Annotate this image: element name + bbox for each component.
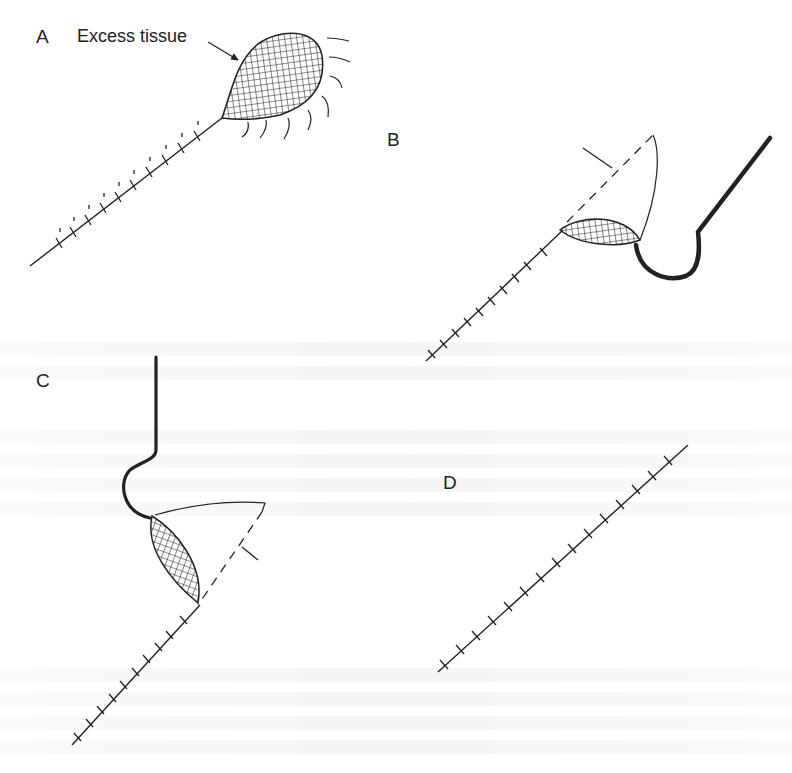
closed-incision-line [438,445,688,672]
incision-arrow [242,547,258,560]
retracted-tissue [151,516,199,603]
incision-arrow [583,148,612,168]
arrowhead-icon [231,54,238,60]
excess-tissue-dogear [222,33,323,119]
tissue-flap-outline [640,135,657,240]
incision-line [426,230,563,361]
skin-hook-icon [124,357,156,518]
panel-b [426,135,770,361]
skin-hook-icon [636,138,770,278]
sutures-icon [74,616,187,741]
tissue-flap-outline [155,502,265,515]
panel-a [30,33,350,266]
panel-c [72,357,265,745]
sutures-icon [440,456,672,669]
planned-excision-dashed-line [198,512,262,605]
panel-d [438,445,688,672]
surgical-diagram [0,0,792,773]
planned-excision-dashed-line [567,135,653,222]
retracted-tissue [560,219,640,245]
